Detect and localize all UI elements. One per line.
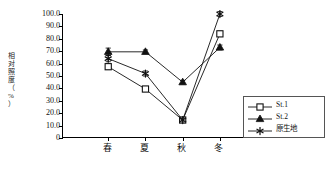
data-point (105, 64, 111, 70)
x-axis-tick (145, 137, 146, 141)
y-axis-tick (59, 51, 63, 52)
y-axis-tick (59, 126, 63, 127)
y-tick-label: 90.0 (20, 22, 60, 30)
y-axis-tick (59, 76, 63, 77)
y-axis-tick (59, 14, 63, 15)
x-axis-tick (220, 137, 221, 141)
data-point (142, 48, 150, 55)
series-lines (63, 14, 261, 138)
y-tick-label: 40.0 (20, 84, 60, 92)
x-tick-label: 夏 (124, 143, 164, 153)
legend-marker (247, 111, 273, 123)
chart-legend: St.1St.2原生地 (243, 96, 325, 138)
y-axis-title-char: 相 (4, 52, 18, 60)
y-axis-title: 相对照度（%） (4, 52, 18, 108)
y-axis-title-char: ） (4, 100, 18, 108)
y-axis-tick (59, 64, 63, 65)
legend-symbol (257, 104, 263, 110)
y-axis-tick (59, 113, 63, 114)
legend-label: St.2 (276, 111, 288, 123)
y-axis-tick (59, 88, 63, 89)
data-point (216, 43, 224, 50)
data-point (142, 86, 148, 92)
legend-label: 原生地 (276, 123, 297, 135)
x-axis-tick (183, 137, 184, 141)
x-tick-label: 冬 (199, 143, 239, 153)
y-tick-label: 0 (20, 134, 60, 142)
series-line (108, 34, 220, 120)
legend-item-原生地: 原生地 (247, 123, 321, 135)
y-axis-tick (59, 39, 63, 40)
y-axis-tick-labels: 100.090.080.070.060.050.040.030.020.010.… (18, 0, 60, 181)
legend-marker (247, 123, 273, 135)
series-St.1 (105, 31, 223, 123)
y-axis-title-char: 度 (4, 76, 18, 84)
legend-item-St.2: St.2 (247, 111, 321, 123)
y-axis-title-char: 照 (4, 68, 18, 76)
x-tick-label: 秋 (162, 143, 202, 153)
y-tick-label: 80.0 (20, 35, 60, 43)
y-tick-label: 60.0 (20, 60, 60, 68)
y-tick-label: 50.0 (20, 72, 60, 80)
data-point (104, 48, 112, 55)
chart-container: 相对照度（%） 100.090.080.070.060.050.040.030.… (0, 0, 330, 181)
y-axis-tick (59, 26, 63, 27)
y-axis-tick (59, 101, 63, 102)
y-axis-title-char: 对 (4, 60, 18, 68)
legend-item-St.1: St.1 (247, 99, 321, 111)
legend-label: St.1 (276, 99, 288, 111)
y-axis-title-char: （ (4, 84, 18, 92)
plot-area (62, 14, 260, 138)
y-tick-label: 100.0 (20, 10, 60, 18)
data-point (217, 31, 223, 37)
y-tick-label: 20.0 (20, 109, 60, 117)
data-point (105, 55, 111, 62)
x-axis-tick (108, 137, 109, 141)
y-tick-label: 70.0 (20, 47, 60, 55)
y-axis-tick (59, 138, 63, 139)
x-tick-label: 春 (87, 143, 127, 153)
y-tick-label: 30.0 (20, 97, 60, 105)
legend-symbol (256, 115, 264, 122)
y-tick-label: 10.0 (20, 122, 60, 130)
y-axis-title-char: % (4, 92, 18, 100)
legend-marker (247, 99, 273, 111)
